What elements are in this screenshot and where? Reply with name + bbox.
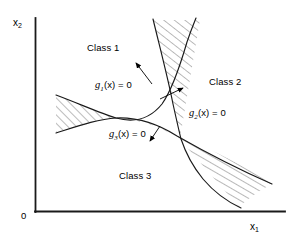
origin-label: 0 [21,211,26,221]
y-axis-label-subscript: 2 [18,22,22,29]
boundary-label-g3-rest: (x) = 0 [118,128,146,139]
boundary-label-g2-rest: (x) = 0 [198,107,226,118]
region-label-class-3: Class 3 [119,171,151,181]
region-label-class-1: Class 1 [87,43,119,53]
decision-boundary-figure: x2 x1 0 Class 1 Class 2 Class 3 g1(x) = … [0,0,294,248]
region-label-class-2: Class 2 [209,77,241,87]
x-axis-label-subscript: 1 [255,226,259,233]
x-axis-label: x1 [250,222,259,233]
hatch-band-g3 [177,136,272,207]
boundary-label-g1-rest: (x) = 0 [104,79,132,90]
y-axis-label: x2 [13,18,22,29]
boundary-label-g2: g2(x) = 0 [189,108,226,121]
figure-canvas [0,0,294,248]
direction-arrow-g3 [150,126,160,141]
boundary-label-g1: g1(x) = 0 [95,80,132,93]
boundary-label-g3: g3(x) = 0 [109,129,146,142]
direction-arrow-g1 [136,63,152,84]
